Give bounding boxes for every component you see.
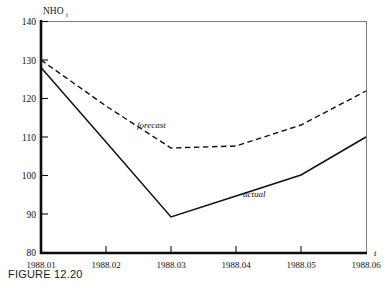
x-axis-label: t	[374, 248, 377, 258]
series-annotation-forecast: forecast	[137, 120, 166, 130]
figure-container: 140 130 120 110 100 90 80 NHO t 1988.01 …	[0, 0, 388, 288]
y-tick-label-110: 110	[22, 133, 36, 143]
y-tick-label-130: 130	[22, 56, 37, 66]
series-line-actual	[41, 68, 366, 218]
series-annotation-actual: actual	[243, 189, 266, 199]
y-tick-label-90: 90	[27, 210, 37, 220]
y-axis-label: NHO	[43, 6, 64, 16]
y-tick-label-120: 120	[22, 94, 37, 104]
series-line-forecast	[41, 60, 366, 148]
x-tick-label-1988-05: 1988.05	[286, 260, 316, 270]
y-tick-label-100: 100	[22, 171, 37, 181]
y-tick-label-140: 140	[22, 17, 37, 27]
x-tick-label-1988-04: 1988.04	[221, 260, 251, 270]
line-chart: 140 130 120 110 100 90 80 NHO t 1988.01 …	[0, 0, 388, 288]
y-tick-label-80: 80	[27, 248, 37, 258]
figure-caption: FIGURE 12.20	[8, 268, 83, 280]
x-tick-label-1988-06: 1988.06	[351, 260, 381, 270]
x-tick-label-1988-03: 1988.03	[156, 260, 186, 270]
x-tick-label-1988-02: 1988.02	[91, 260, 120, 270]
y-axis-label-subscript: t	[66, 11, 68, 18]
